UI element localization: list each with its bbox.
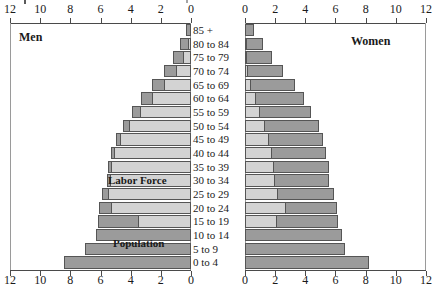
axis-tick-label: 0: [242, 2, 248, 16]
population-bar: [245, 229, 342, 241]
labor-force-bar: [245, 92, 256, 104]
age-group-label: 30 to 34: [193, 174, 240, 186]
axis-tick-label: 10: [390, 273, 402, 287]
axis-tick-label: 12: [4, 2, 16, 16]
age-group-label: 35 to 39: [193, 161, 240, 173]
axis-tick: [191, 18, 192, 23]
axis-tick-label: 6: [98, 273, 104, 287]
labor-force-bar: [245, 120, 265, 132]
age-group-label: 0 to 4: [193, 256, 240, 268]
labor-force-bar: [245, 147, 272, 159]
age-group-label: 65 to 69: [193, 79, 240, 91]
labor-force-bar: [245, 188, 278, 200]
axis-tick-label: 4: [128, 273, 134, 287]
axis-tick-label: 10: [390, 2, 402, 16]
axis-bottom-left-labels: 121086420: [0, 273, 200, 287]
axis-bottom-right-labels: 024681012: [240, 273, 433, 287]
population-bar: [245, 65, 283, 77]
axis-tick-label: 12: [420, 2, 432, 16]
population-bar: [245, 243, 345, 255]
age-group-label: 40 to 44: [193, 147, 240, 159]
labor-force-bar: [245, 161, 274, 173]
age-group-label: 60 to 64: [193, 92, 240, 104]
axis-tick-label: 6: [332, 2, 338, 16]
population-bar: [245, 79, 295, 91]
population-bar: [245, 24, 254, 36]
axis-tick: [426, 18, 427, 23]
axis-tick-label: 10: [34, 2, 46, 16]
age-group-label: 70 to 74: [193, 65, 240, 77]
axis-tick-label: 8: [67, 2, 73, 16]
axis-tick-label: 6: [332, 273, 338, 287]
labor-force-bar: [245, 65, 248, 77]
axis-tick-label: 2: [158, 273, 164, 287]
axis-tick-label: 12: [4, 273, 16, 287]
labor-force-bar: [245, 79, 251, 91]
axis-top-right-labels: 024681012: [240, 2, 433, 16]
age-group-label: 20 to 24: [193, 202, 240, 214]
axis-tick-label: 0: [188, 2, 194, 16]
age-group-label: 50 to 54: [193, 120, 240, 132]
axis-tick-label: 12: [420, 273, 432, 287]
age-group-label: 55 to 59: [193, 106, 240, 118]
population-bar: [245, 256, 369, 268]
axis-top-left-labels: 121086420: [0, 2, 200, 16]
age-group-label: 85 +: [193, 24, 240, 36]
axis-tick-label: 2: [272, 2, 278, 16]
axis-tick-label: 10: [34, 273, 46, 287]
axis-tick-label: 8: [363, 273, 369, 287]
axis-tick-label: 4: [302, 2, 308, 16]
labor-force-bar: [245, 51, 247, 63]
age-group-label: 15 to 19: [193, 215, 240, 227]
population-annotation: Population: [113, 237, 164, 249]
age-group-label: 25 to 29: [193, 188, 240, 200]
labor-force-bar: [245, 202, 286, 214]
axis-tick-label: 4: [302, 273, 308, 287]
axis-tick-label: 0: [188, 273, 194, 287]
axis-tick-label: 8: [363, 2, 369, 16]
labor-force-bar: [245, 106, 260, 118]
axis-tick-label: 0: [242, 273, 248, 287]
labor-force-annotation: Labor Force: [108, 174, 167, 186]
labor-force-bar: [245, 133, 269, 145]
axis-tick-label: 8: [67, 273, 73, 287]
population-bar: [245, 51, 272, 63]
age-group-label: 80 to 84: [193, 38, 240, 50]
axis-tick-label: 6: [98, 2, 104, 16]
axis-tick-label: 4: [128, 2, 134, 16]
axis-tick-label: 2: [158, 2, 164, 16]
age-group-label: 45 to 49: [193, 133, 240, 145]
axis-tick-label: 2: [272, 273, 278, 287]
labor-force-bar: [245, 215, 277, 227]
labor-force-bar: [245, 38, 247, 50]
labor-force-bar: [245, 174, 275, 186]
population-pyramid-chart: 121086420 024681012 Men Women 85 +80 to …: [0, 0, 433, 290]
age-group-label: 10 to 14: [193, 229, 240, 241]
age-group-labels: 85 +80 to 8475 to 7970 to 7465 to 6960 t…: [193, 24, 240, 269]
population-bar: [245, 38, 263, 50]
age-group-label: 75 to 79: [193, 51, 240, 63]
age-group-label: 5 to 9: [193, 243, 240, 255]
